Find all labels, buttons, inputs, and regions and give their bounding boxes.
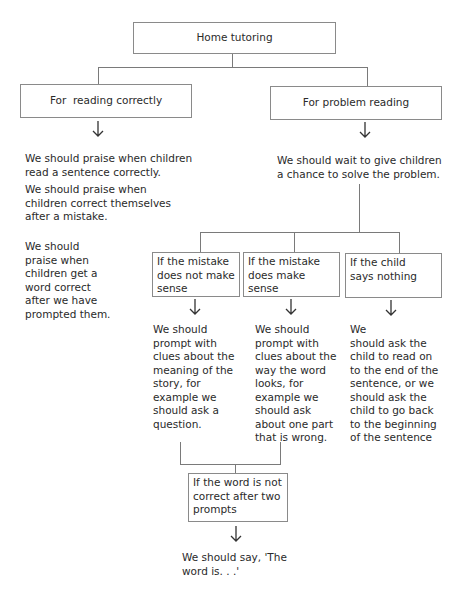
connector bbox=[367, 67, 368, 86]
arrow-down-icon bbox=[359, 122, 371, 138]
connector bbox=[180, 464, 281, 465]
case-not-make-sense-node: If the mistake does not make sense bbox=[152, 252, 240, 297]
case-says-nothing-node: If the child says nothing bbox=[345, 253, 442, 298]
praise-prompted-text: We should praise when children get a wor… bbox=[25, 240, 110, 321]
connector bbox=[98, 67, 99, 84]
connector bbox=[235, 464, 236, 473]
read-on-text: We should ask the child to read on to th… bbox=[350, 323, 438, 445]
reading-correctly-label: For reading correctly bbox=[50, 94, 162, 108]
arrow-down-icon bbox=[230, 526, 242, 542]
root-label: Home tutoring bbox=[196, 31, 272, 45]
connector bbox=[232, 54, 233, 68]
wait-text: We should wait to give children a chance… bbox=[277, 154, 442, 181]
case-does-make-sense-node: If the mistake does make sense bbox=[243, 252, 340, 297]
root-node: Home tutoring bbox=[133, 22, 336, 54]
connector bbox=[280, 442, 281, 465]
connector bbox=[200, 232, 400, 233]
arrow-down-icon bbox=[189, 299, 201, 315]
arrow-down-icon bbox=[92, 121, 104, 137]
problem-reading-label: For problem reading bbox=[303, 96, 409, 110]
arrow-down-icon bbox=[285, 299, 297, 315]
meaning-clues-text: We should prompt with clues about the me… bbox=[153, 323, 234, 431]
connector bbox=[294, 232, 295, 252]
connector bbox=[180, 442, 181, 465]
reading-correctly-node: For reading correctly bbox=[20, 84, 192, 118]
praise-sentence-text: We should praise when children read a se… bbox=[25, 152, 192, 179]
connector bbox=[200, 232, 201, 252]
fallback-node: If the word is not correct after two pro… bbox=[188, 473, 288, 522]
connector bbox=[399, 232, 400, 253]
say-word-text: We should say, 'The word is. . .' bbox=[182, 551, 287, 578]
word-look-clues-text: We should prompt with clues about the wa… bbox=[255, 323, 336, 445]
problem-reading-node: For problem reading bbox=[270, 86, 442, 120]
connector bbox=[98, 67, 368, 68]
praise-self-correct-text: We should praise when children correct t… bbox=[25, 183, 171, 224]
connector bbox=[359, 184, 360, 232]
arrow-down-icon bbox=[385, 300, 397, 316]
